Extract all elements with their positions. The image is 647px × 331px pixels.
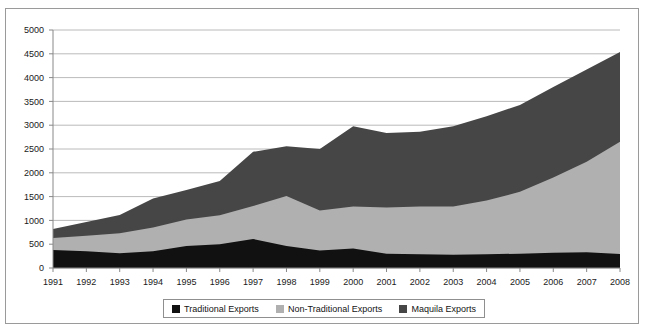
x-tick-label: 2008 [610, 277, 630, 287]
legend-item-label: Traditional Exports [184, 304, 259, 314]
y-tick-label: 2500 [24, 144, 44, 154]
x-tick-label: 2003 [443, 277, 463, 287]
x-tick-label: 1996 [210, 277, 230, 287]
legend-item-traditional-exports: Traditional Exports [172, 304, 259, 314]
x-tick-label: 2001 [377, 277, 397, 287]
legend-item-label: Non-Traditional Exports [288, 304, 382, 314]
y-tick-label: 1000 [24, 216, 44, 226]
y-tick-label: 0 [39, 263, 44, 273]
x-tick-label: 1991 [43, 277, 63, 287]
y-axis-tick-labels: 0500100015002000250030003500400045005000 [24, 25, 44, 273]
legend-swatch-icon [276, 305, 284, 313]
legend-swatch-icon [399, 305, 407, 313]
legend-swatch-icon [172, 305, 180, 313]
x-tick-label: 2004 [477, 277, 497, 287]
x-tick-label: 2002 [410, 277, 430, 287]
x-tick-label: 1992 [76, 277, 96, 287]
x-tick-label: 1997 [243, 277, 263, 287]
x-tick-label: 2005 [510, 277, 530, 287]
x-tick-label: 2006 [543, 277, 563, 287]
legend-item-non-traditional-exports: Non-Traditional Exports [276, 304, 382, 314]
x-axis-tick-labels: 1991199219931994199519961997199819992000… [43, 277, 630, 287]
y-tick-label: 2000 [24, 168, 44, 178]
x-tick-label: 2007 [577, 277, 597, 287]
x-tick-label: 1995 [176, 277, 196, 287]
chart-figure: 0500100015002000250030003500400045005000… [0, 0, 647, 331]
y-tick-label: 500 [29, 239, 44, 249]
legend-item-label: Maquila Exports [411, 304, 476, 314]
legend-item-maquila-exports: Maquila Exports [399, 304, 476, 314]
y-tick-label: 4500 [24, 49, 44, 59]
y-tick-label: 5000 [24, 25, 44, 35]
x-tick-label: 1999 [310, 277, 330, 287]
x-tick-label: 2000 [343, 277, 363, 287]
area-series-group [53, 52, 620, 268]
stacked-area-chart: 0500100015002000250030003500400045005000… [0, 0, 647, 331]
x-tick-label: 1993 [110, 277, 130, 287]
y-tick-label: 3500 [24, 97, 44, 107]
y-tick-label: 3000 [24, 120, 44, 130]
chart-legend: Traditional Exports Non-Traditional Expo… [163, 299, 485, 318]
y-tick-label: 1500 [24, 192, 44, 202]
y-tick-label: 4000 [24, 73, 44, 83]
x-tick-label: 1994 [143, 277, 163, 287]
x-tick-label: 1998 [276, 277, 296, 287]
